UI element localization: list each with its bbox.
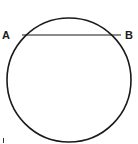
point-label-a: A <box>2 29 10 41</box>
point-label-b: B <box>125 29 133 41</box>
circle <box>7 18 131 142</box>
circle-diagram: A B <box>0 0 138 144</box>
